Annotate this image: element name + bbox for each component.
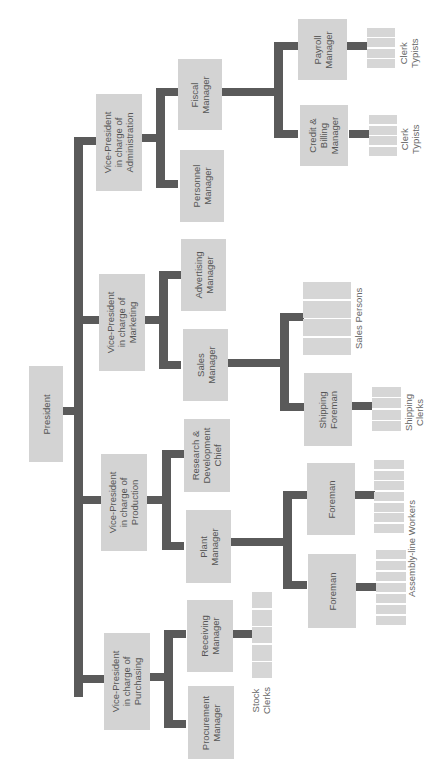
- procurement-stub: [164, 720, 186, 728]
- shipping-clerks-label: Shipping Clerks: [403, 394, 425, 431]
- shipping-foreman-label: Shipping Foreman: [317, 390, 339, 428]
- rd-chief-box: Research & Development Chief: [184, 419, 230, 492]
- advertising-stub: [159, 271, 181, 279]
- vp-purchasing-label: Vice-President in charge of Purchasing: [111, 651, 144, 713]
- foreman-1-box: Foreman: [307, 463, 355, 535]
- payroll-manager-box: Payroll Manager: [298, 19, 347, 80]
- foreman1-workers-stub: [355, 491, 375, 499]
- vp-purchasing-stub: [81, 675, 104, 683]
- foreman-2-box: Foreman: [308, 554, 356, 628]
- payroll-clerks-stub: [347, 42, 367, 50]
- vp-marketing-box: Vice-President in charge of Marketing: [99, 274, 145, 371]
- fiscal-out: [222, 88, 278, 96]
- production-spine: [162, 450, 171, 550]
- marketing-spine: [159, 271, 168, 369]
- shipping-foreman-box: Shipping Foreman: [304, 373, 352, 446]
- foreman-2-label: Foreman: [326, 572, 337, 610]
- receiving-stub: [164, 630, 186, 638]
- admin-spine: [156, 88, 165, 188]
- foreman2-workers-stub: [356, 583, 376, 591]
- receiving-manager-label: Receiving Manager: [199, 615, 221, 657]
- payroll-stub: [274, 42, 298, 50]
- shipping-clerks-stack: [372, 387, 401, 431]
- rd-stub: [162, 450, 184, 458]
- sales-manager-box: Sales Manager: [183, 329, 228, 401]
- vp-marketing-stub: [80, 316, 99, 324]
- president-box: President: [29, 366, 63, 462]
- production-stub: [147, 496, 163, 504]
- sales-spine: [280, 313, 289, 411]
- sales-stub: [159, 361, 181, 369]
- stock-clerks-stack: [252, 592, 272, 678]
- credit-clerk-typists-label: Clerk Typists: [399, 124, 421, 154]
- credit-billing-manager-box: Credit & Billing Manager: [300, 105, 348, 166]
- vp-admin-label: Vice-President in charge of Administrati…: [103, 112, 136, 174]
- assembly-workers-stack-1: [374, 460, 404, 533]
- advertising-manager-label: Advertising Manager: [193, 252, 215, 299]
- trunk-connector: [74, 137, 83, 697]
- plant-manager-box: Plant Manager: [186, 510, 231, 583]
- plant-stub: [162, 542, 184, 550]
- vp-purchasing-box: Vice-President in charge of Purchasing: [104, 633, 150, 730]
- personnel-manager-label: Personnel Manager: [191, 165, 213, 208]
- sales-manager-label: Sales Manager: [195, 346, 217, 384]
- assembly-line-workers-label: Assembly-line Workers: [406, 500, 417, 597]
- shipping-stub: [280, 403, 304, 411]
- president-connector: [62, 407, 76, 415]
- personnel-stub: [156, 180, 178, 188]
- sales-out: [228, 359, 288, 367]
- plant-manager-label: Plant Manager: [198, 528, 220, 566]
- plant-out: [231, 538, 291, 546]
- payroll-clerk-typists-label: Clerk Typists: [398, 38, 420, 68]
- foreman-1-label: Foreman: [325, 480, 336, 518]
- sales-persons-stack: [303, 282, 351, 355]
- president-label: President: [41, 394, 52, 434]
- rd-chief-label: Research & Development Chief: [191, 428, 224, 484]
- vp-production-stub: [82, 496, 101, 504]
- sales-persons-label: Sales Persons: [353, 288, 364, 349]
- personnel-manager-box: Personnel Manager: [180, 150, 224, 222]
- fiscal-manager-box: Fiscal Manager: [178, 59, 222, 130]
- fiscal-manager-label: Fiscal Manager: [189, 76, 211, 114]
- credit-billing-manager-label: Credit & Billing Manager: [308, 117, 341, 155]
- vp-admin-box: Vice-President in charge of Administrati…: [96, 94, 142, 191]
- vp-marketing-label: Vice-President in charge of Marketing: [106, 292, 139, 354]
- procurement-manager-label: Procurement Manager: [200, 695, 222, 749]
- plant-spine: [283, 491, 292, 589]
- credit-clerk-stack: [369, 115, 397, 156]
- vp-production-box: Vice-President in charge of Production: [101, 454, 147, 551]
- credit-stub: [274, 130, 298, 138]
- fiscal-stub: [156, 88, 178, 96]
- purchasing-spine: [164, 630, 173, 728]
- credit-clerks-stub: [349, 130, 369, 138]
- advertising-manager-box: Advertising Manager: [181, 239, 226, 311]
- assembly-workers-stack-2: [376, 550, 406, 625]
- vp-production-label: Vice-President in charge of Production: [108, 472, 141, 534]
- payroll-clerk-stack: [367, 28, 395, 68]
- stock-clerks-stub: [232, 630, 252, 638]
- payroll-manager-label: Payroll Manager: [312, 31, 334, 69]
- receiving-manager-box: Receiving Manager: [187, 600, 233, 672]
- vp-admin-stub: [74, 137, 96, 145]
- foreman2-stub: [283, 581, 307, 589]
- procurement-manager-box: Procurement Manager: [188, 686, 234, 759]
- shipping-clerks-stub: [352, 402, 372, 410]
- salespersons-stub: [280, 313, 304, 321]
- foreman1-stub: [283, 491, 307, 499]
- fiscal-spine: [274, 42, 283, 138]
- stock-clerks-label: Stock Clerks: [250, 687, 272, 714]
